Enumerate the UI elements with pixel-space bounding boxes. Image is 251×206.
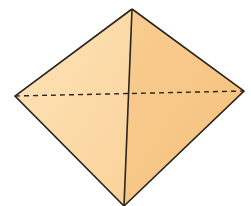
left-face bbox=[15, 9, 132, 206]
pyramid-diagram bbox=[0, 0, 251, 206]
